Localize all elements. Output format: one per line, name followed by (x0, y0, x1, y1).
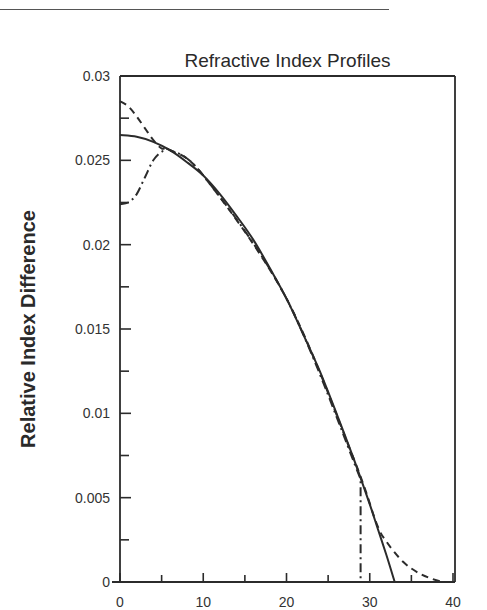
y-tick-label: 0 (102, 574, 110, 590)
y-tick-label: 0.025 (75, 152, 110, 168)
series-solid-line (120, 135, 395, 582)
y-tick-label: 0.015 (75, 321, 110, 337)
x-tick-label: 10 (195, 594, 211, 610)
y-tick-label: 0.03 (83, 68, 110, 84)
y-tick-label: 0.01 (83, 405, 110, 421)
y-tick-label: 0.005 (75, 490, 110, 506)
plot-area: 01020304000.0050.010.0150.020.0250.03 (0, 0, 487, 610)
x-tick-label: 0 (116, 594, 124, 610)
series-dashed-line (120, 101, 445, 582)
x-tick-label: 30 (362, 594, 378, 610)
series-dash-dot-line (120, 149, 361, 582)
x-tick-label: 40 (445, 594, 461, 610)
y-tick-label: 0.02 (83, 237, 110, 253)
x-tick-label: 20 (279, 594, 295, 610)
